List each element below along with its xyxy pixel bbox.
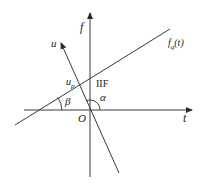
alpha-label: α xyxy=(100,91,106,103)
diagram-canvas: f t O u fq(t) up IIF β α xyxy=(0,0,201,192)
iif-label: IIF xyxy=(96,78,109,89)
t-axis-label: t xyxy=(183,111,187,125)
fq-line-label: fq(t) xyxy=(168,37,184,51)
fq-arg: (t) xyxy=(174,37,184,49)
intersection-label: up xyxy=(66,76,75,90)
f-axis-label: f xyxy=(80,20,85,34)
alpha-arc xyxy=(86,100,100,110)
diagram-svg: f t O u fq(t) up IIF β α xyxy=(0,0,201,192)
fq-line xyxy=(15,29,170,125)
beta-label: β xyxy=(64,95,71,107)
up-sub: p xyxy=(70,82,75,90)
u-line-label: u xyxy=(51,37,57,49)
origin-label: O xyxy=(78,112,86,124)
beta-arc xyxy=(58,97,62,110)
